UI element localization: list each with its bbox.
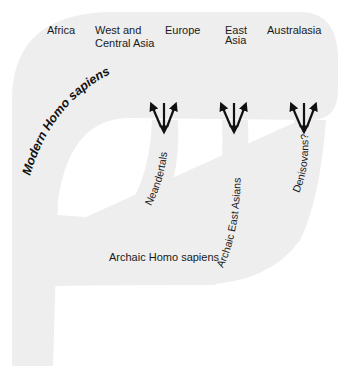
homo-sapiens-population-diagram: Africa West and Central Asia Europe East… bbox=[0, 0, 344, 381]
region-east-asia: East Asia bbox=[225, 24, 250, 46]
population-bands bbox=[12, 12, 338, 366]
archaic-homo-sapiens-label: Archaic Homo sapiens bbox=[109, 251, 220, 263]
region-australasia: Australasia bbox=[267, 24, 322, 36]
region-europe: Europe bbox=[165, 24, 200, 36]
region-africa: Africa bbox=[47, 24, 76, 36]
